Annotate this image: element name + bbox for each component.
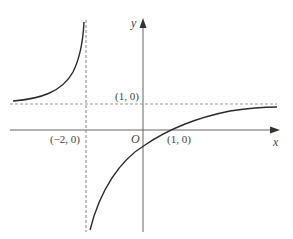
function-graph: y x O (1, 0) (−2, 0) (1, 0) [0,0,293,239]
x-axis-label: x [272,135,279,149]
curve-left-branch [13,22,84,101]
curve-right-branch [90,107,277,230]
y-axis-label: y [130,16,137,30]
y-axis-arrow-icon [140,18,147,28]
horizontal-asymptote-label: (1, 0) [115,90,139,103]
x-intercept-label: (1, 0) [167,133,191,146]
origin-label: O [131,132,140,146]
x-axis-arrow-icon [270,127,280,134]
vertical-asymptote-point-label: (−2, 0) [50,133,80,146]
